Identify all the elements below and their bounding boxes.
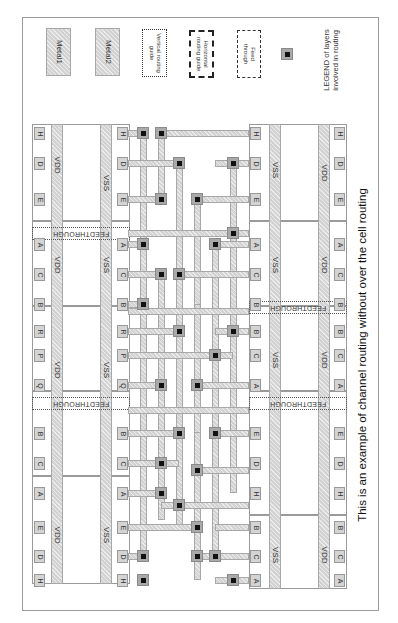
pin-bottom-inner: B (250, 325, 261, 338)
via-icon (209, 427, 221, 439)
via-icon (155, 193, 167, 205)
pin-bottom-outer: C (334, 550, 345, 563)
metal1-horizontal-track (128, 430, 179, 437)
via-icon (155, 457, 167, 469)
pin-bottom-outer: B (334, 521, 345, 534)
diagram-caption: This is an example of channel routing wi… (352, 120, 372, 590)
pin-top-inner: A (117, 238, 128, 251)
pin-top-outer: D (34, 550, 45, 563)
legend-title: LEGEND of layersinvolved in routing (318, 25, 344, 95)
legend-metal2-swatch: Metal2 (95, 28, 120, 76)
feedthrough-top-2: FEEDTHROUGH (32, 397, 130, 410)
pin-top-inner: B (117, 427, 128, 440)
pin-top-inner: A (117, 487, 128, 500)
pin-top-outer: A (34, 487, 45, 500)
cell-bottom-1 (249, 124, 347, 221)
pin-bottom-outer: A (334, 238, 345, 251)
pin-bottom-outer: C (334, 349, 345, 362)
via-icon (209, 238, 221, 250)
via-icon (173, 499, 185, 511)
metal1-horizontal-track (197, 382, 249, 389)
pin-bottom-inner: C (250, 550, 261, 563)
legend-horizontal-guide-swatch: Horizontalrouting guide (189, 30, 214, 78)
via-icon (227, 227, 239, 239)
legend-metal1-swatch: Metal1 (46, 28, 71, 76)
pin-top-outer: D (34, 157, 45, 170)
metal1-horizontal-track (128, 524, 197, 531)
via-icon (155, 268, 167, 280)
via-icon (137, 574, 149, 586)
feedthrough-bottom-1: FEEDTHROUGH (249, 301, 347, 314)
via-icon (173, 157, 185, 169)
metal1-horizontal-track (179, 271, 249, 278)
metal1-horizontal-track (128, 460, 179, 467)
via-icon (209, 550, 221, 562)
pin-bottom-outer: H (334, 127, 345, 140)
pin-bottom-inner: H (250, 487, 261, 500)
pin-top-inner: H (117, 127, 128, 140)
via-icon (155, 379, 167, 391)
pin-top-inner: E (117, 193, 128, 206)
pin-bottom-inner: B (250, 298, 261, 311)
via-icon (137, 238, 149, 250)
vss-rail-top: VSS (100, 124, 112, 584)
legend-vertical-guide-swatch: Vertical routingguide (142, 29, 167, 77)
pin-bottom-inner: E (250, 427, 261, 440)
pin-top-inner: Q (117, 379, 128, 392)
pin-bottom-inner: C (250, 268, 261, 281)
pin-top-inner: E (117, 521, 128, 534)
pin-bottom-outer: D (334, 457, 345, 470)
cell-bottom-2 (249, 221, 347, 306)
pin-bottom-outer: E (334, 427, 345, 440)
feedthrough-top-1: FEEDTHROUGH (32, 227, 130, 240)
pin-top-inner: C (117, 268, 128, 281)
legend-feed-through-swatch: Feedthrough (237, 30, 261, 78)
pin-bottom-inner: B (250, 521, 261, 534)
via-icon (173, 325, 185, 337)
legend-horizontal-guide-label: Horizontalrouting guide (195, 37, 209, 72)
metal1-horizontal-track (128, 407, 249, 414)
pin-bottom-outer: C (334, 268, 345, 281)
cell-bottom-5 (249, 515, 347, 589)
via-icon (209, 349, 221, 361)
pin-top-inner: B (117, 298, 128, 311)
via-icon (173, 427, 185, 439)
feedthrough-bottom-2: FEEDTHROUGH (249, 397, 347, 410)
pin-bottom-outer: B (334, 298, 345, 311)
via-icon (191, 193, 203, 205)
cell-bottom-3 (249, 306, 347, 391)
pin-bottom-inner: A (250, 574, 261, 587)
cell-top-1 (32, 124, 130, 221)
pin-bottom-inner: D (250, 157, 261, 170)
via-icon (191, 550, 203, 562)
legend-via-icon (281, 48, 293, 60)
via-icon (227, 157, 239, 169)
pin-top-outer: B (34, 427, 45, 440)
pin-bottom-outer: D (334, 157, 345, 170)
via-icon (191, 379, 203, 391)
pin-bottom-inner: A (250, 379, 261, 392)
pin-top-inner: D (117, 550, 128, 563)
pin-top-inner: D (117, 157, 128, 170)
metal1-horizontal-track (197, 553, 249, 560)
pin-bottom-outer: H (334, 487, 345, 500)
metal1-horizontal-track (197, 467, 249, 474)
pin-top-outer: C (34, 457, 45, 470)
pin-top-outer: H (34, 127, 45, 140)
legend-vertical-guide-label: Vertical routingguide (148, 33, 162, 73)
pin-bottom-inner: A (250, 238, 261, 251)
pin-top-outer: C (34, 268, 45, 281)
metal1-horizontal-track (197, 196, 249, 203)
pin-bottom-inner: H (250, 127, 261, 140)
pin-top-outer: E (34, 193, 45, 206)
via-icon (227, 325, 239, 337)
via-icon (137, 550, 149, 562)
pin-top-outer: B (34, 298, 45, 311)
legend-metal1-label: Metal1 (54, 40, 63, 64)
via-icon (155, 127, 167, 139)
via-icon (137, 298, 149, 310)
via-icon (173, 268, 185, 280)
pin-bottom-inner: C (250, 349, 261, 362)
cell-top-5 (32, 476, 130, 584)
pin-top-inner: P (117, 349, 128, 362)
